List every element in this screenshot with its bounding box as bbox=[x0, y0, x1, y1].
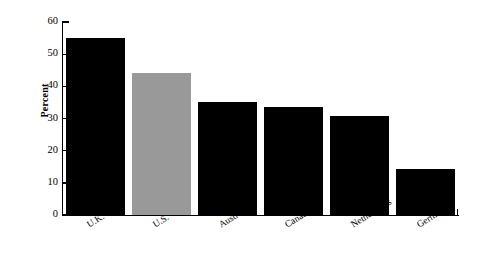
y-axis-tick bbox=[62, 182, 69, 183]
bar-series bbox=[62, 22, 458, 215]
y-axis-tick-label: 30 bbox=[18, 112, 58, 123]
bar-netherlands[interactable] bbox=[330, 116, 389, 215]
bar-u-s[interactable] bbox=[132, 73, 191, 215]
y-axis-tick-label: 50 bbox=[18, 47, 58, 58]
y-axis-tick-labels: 0102030405060 bbox=[14, 0, 58, 280]
y-axis-tick bbox=[62, 21, 69, 22]
y-axis-tick bbox=[62, 150, 69, 151]
y-axis-tick-label: 20 bbox=[18, 144, 58, 155]
y-axis-tick-label: 0 bbox=[18, 208, 58, 219]
y-axis-tick-label: 60 bbox=[18, 15, 58, 26]
x-axis-category-labels: U.K.U.S.AustraliaCanadaNetherlandsGerman… bbox=[62, 215, 458, 280]
y-axis-tick-label: 10 bbox=[18, 176, 58, 187]
y-axis-tick bbox=[62, 86, 69, 87]
y-axis-tick bbox=[62, 54, 69, 55]
bar-canada[interactable] bbox=[264, 107, 323, 215]
x-axis-label-u-s: U.S. bbox=[151, 212, 171, 229]
bar-u-k[interactable] bbox=[66, 38, 125, 215]
y-axis-tick bbox=[62, 214, 69, 215]
bar-australia[interactable] bbox=[198, 102, 257, 215]
y-axis-tick-label: 40 bbox=[18, 79, 58, 90]
y-axis-tick bbox=[62, 118, 69, 119]
bar-chart-figure: Percent 0102030405060 U.K.U.S.AustraliaC… bbox=[0, 0, 490, 280]
